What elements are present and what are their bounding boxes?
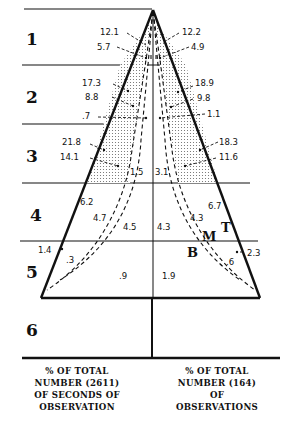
level-label-6: 6: [26, 320, 38, 340]
value-l2-a: 17.3: [82, 78, 101, 88]
value-l4-b: 4.7: [93, 213, 107, 223]
value-r4-b: 4.3: [190, 213, 204, 223]
caption-left-line: NUMBER (2611): [12, 377, 142, 389]
zone-marker-top: T: [221, 220, 231, 235]
level-labels: 1 2 3 4 5 6: [26, 29, 42, 340]
value-r5-b: .6: [226, 257, 234, 267]
value-r2-a: 18.9: [195, 78, 214, 88]
value-r4-a: 6.7: [208, 201, 222, 211]
caption-left-line: OBSERVATION: [12, 401, 142, 413]
caption-left: % OF TOTAL NUMBER (2611) OF SECONDS OF O…: [12, 365, 142, 413]
value-l5-b: .3: [66, 255, 74, 265]
value-l5-a: 1.4: [38, 245, 52, 255]
level-label-1: 1: [26, 29, 38, 49]
value-l4-a: 6.2: [80, 197, 94, 207]
caption-right: % OF TOTAL NUMBER (164) OF OBSERVATIONS: [152, 365, 282, 413]
level-label-5: 5: [26, 262, 38, 282]
level-label-3: 3: [26, 146, 38, 166]
caption-right-line: NUMBER (164): [152, 377, 282, 389]
value-r2-c: 1.1: [207, 109, 221, 119]
caption-left-line: OF SECONDS OF: [12, 389, 142, 401]
caption-right-line: % OF TOTAL: [152, 365, 282, 377]
value-l4-c: 4.5: [123, 222, 137, 232]
value-r1-a: 12.2: [182, 27, 201, 37]
value-l5-c: .9: [119, 271, 127, 281]
level-label-4: 4: [30, 205, 42, 225]
value-l3-c: 1.5: [130, 167, 144, 177]
value-l2-c: .7: [82, 111, 90, 121]
value-r5-c: 1.9: [162, 271, 176, 281]
value-r3-c: 3.1: [155, 167, 169, 177]
value-r3-a: 18.3: [219, 137, 238, 147]
caption-right-line: OBSERVATIONS: [152, 401, 282, 413]
value-l3-b: 14.1: [60, 152, 79, 162]
zone-marker-middle: M: [202, 229, 216, 244]
value-r4-c: 4.3: [157, 222, 171, 232]
value-l3-a: 21.8: [62, 137, 81, 147]
level-label-2: 2: [26, 87, 38, 107]
value-l1-b: 5.7: [97, 42, 111, 52]
value-r5-a: 2.3: [247, 248, 261, 258]
value-l1-a: 12.1: [100, 27, 119, 37]
caption-right-line: OF: [152, 389, 282, 401]
zone-marker-bottom: B: [187, 245, 198, 260]
value-r2-b: 9.8: [197, 93, 211, 103]
value-r1-b: 4.9: [191, 42, 205, 52]
value-r3-b: 11.6: [219, 152, 238, 162]
value-l2-b: 8.8: [85, 92, 99, 102]
caption-left-line: % OF TOTAL: [12, 365, 142, 377]
